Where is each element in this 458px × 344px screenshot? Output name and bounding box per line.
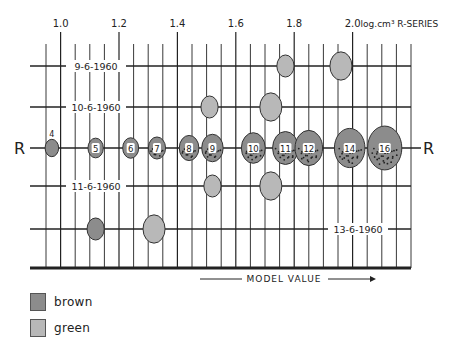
egg-speckle bbox=[245, 152, 247, 154]
egg-point bbox=[201, 96, 218, 118]
egg-speckle bbox=[391, 150, 393, 152]
egg-speckle bbox=[190, 156, 192, 158]
x-tick-label: 2.0 bbox=[345, 18, 361, 29]
egg-point bbox=[260, 172, 282, 200]
egg-label: 5 bbox=[93, 144, 98, 154]
egg-speckle bbox=[382, 155, 384, 157]
egg-speckle bbox=[382, 160, 384, 162]
egg-speckle bbox=[360, 149, 362, 151]
egg-speckle bbox=[279, 157, 281, 159]
egg-speckle bbox=[283, 159, 285, 161]
egg-label: 9 bbox=[210, 144, 215, 154]
egg-point bbox=[204, 175, 221, 197]
legend-item-green: green bbox=[30, 316, 93, 340]
egg-speckle bbox=[194, 150, 196, 152]
egg-speckle bbox=[153, 154, 155, 156]
egg-speckle bbox=[303, 157, 305, 159]
egg-speckle bbox=[209, 154, 211, 156]
egg-speckle bbox=[301, 153, 303, 155]
legend-label-green: green bbox=[54, 321, 90, 335]
legend-swatch-green bbox=[30, 319, 46, 337]
egg-speckle bbox=[346, 155, 348, 157]
egg-point bbox=[277, 55, 294, 77]
egg-speckle bbox=[358, 150, 360, 152]
egg-speckle bbox=[376, 159, 378, 161]
egg-speckle bbox=[390, 161, 392, 163]
egg-speckle bbox=[261, 149, 263, 151]
date-label: 11-6-1960 bbox=[71, 181, 120, 192]
egg-speckle bbox=[205, 152, 207, 154]
legend: brown green bbox=[30, 290, 93, 342]
egg-speckle bbox=[159, 155, 161, 157]
egg-speckle bbox=[341, 153, 343, 155]
egg-label: 7 bbox=[154, 144, 159, 154]
egg-speckle bbox=[342, 158, 344, 160]
egg-speckle bbox=[396, 149, 398, 151]
egg-speckle bbox=[376, 151, 378, 153]
egg-speckle bbox=[293, 150, 295, 152]
egg-speckle bbox=[387, 163, 389, 165]
egg-speckle bbox=[214, 156, 216, 158]
egg-speckle bbox=[376, 153, 378, 155]
egg-speckle bbox=[356, 157, 358, 159]
egg-speckle bbox=[292, 156, 294, 158]
egg-speckle bbox=[343, 157, 345, 159]
x-tick-label: 1.6 bbox=[228, 18, 244, 29]
egg-label: 14 bbox=[344, 144, 355, 154]
egg-speckle bbox=[275, 148, 277, 150]
egg-speckle bbox=[182, 152, 184, 154]
egg-speckle bbox=[383, 162, 385, 164]
x-tick-label: 1.8 bbox=[286, 18, 302, 29]
egg-speckle bbox=[150, 150, 152, 152]
egg-speckle bbox=[310, 157, 312, 159]
egg-speckle bbox=[205, 150, 207, 152]
egg-speckle bbox=[374, 156, 376, 158]
legend-item-brown: brown bbox=[30, 290, 93, 314]
egg-point bbox=[260, 93, 282, 121]
egg-speckle bbox=[348, 161, 350, 163]
legend-label-brown: brown bbox=[54, 295, 93, 309]
egg-speckle bbox=[185, 154, 187, 156]
egg-point bbox=[87, 218, 104, 240]
egg-speckle bbox=[373, 148, 375, 150]
egg-speckle bbox=[219, 149, 221, 151]
egg-point bbox=[143, 215, 165, 243]
egg-speckle bbox=[356, 150, 358, 152]
date-label: 13-6-1960 bbox=[333, 224, 382, 235]
egg-point bbox=[330, 52, 352, 80]
egg-speckle bbox=[277, 152, 279, 154]
egg-label: 11 bbox=[280, 144, 291, 154]
egg-speckle bbox=[342, 151, 344, 153]
egg-label: 10 bbox=[248, 144, 259, 154]
x-tick-label: 1.4 bbox=[169, 18, 185, 29]
egg-label: 6 bbox=[128, 144, 133, 154]
x-tick-label: 1.2 bbox=[111, 18, 127, 29]
arrow-head-icon bbox=[370, 276, 376, 282]
egg-speckle bbox=[393, 150, 395, 152]
egg-speckle bbox=[351, 157, 353, 159]
egg-speckle bbox=[307, 161, 309, 163]
egg-speckle bbox=[371, 152, 373, 154]
egg-speckle bbox=[307, 159, 309, 161]
egg-speckle bbox=[287, 157, 289, 159]
egg-speckle bbox=[251, 159, 253, 161]
egg-speckle bbox=[396, 154, 398, 156]
egg-speckle bbox=[207, 156, 209, 158]
egg-speckle bbox=[305, 155, 307, 157]
x-axis-label: log.cm³ R-SERIES bbox=[361, 19, 439, 29]
egg-label: 12 bbox=[303, 144, 314, 154]
egg-speckle bbox=[301, 158, 303, 160]
egg-speckle bbox=[339, 156, 341, 158]
egg-speckle bbox=[162, 150, 164, 152]
egg-speckle bbox=[182, 150, 184, 152]
egg-speckle bbox=[282, 154, 284, 156]
egg-speckle bbox=[338, 148, 340, 150]
egg-speckle bbox=[249, 154, 251, 156]
egg-speckle bbox=[379, 163, 381, 165]
egg-label: 4 bbox=[49, 130, 54, 139]
egg-point bbox=[45, 139, 59, 156]
egg-speckle bbox=[351, 162, 353, 164]
egg-label: 8 bbox=[186, 144, 191, 154]
egg-label: 16 bbox=[379, 144, 390, 154]
egg-speckle bbox=[218, 150, 220, 152]
